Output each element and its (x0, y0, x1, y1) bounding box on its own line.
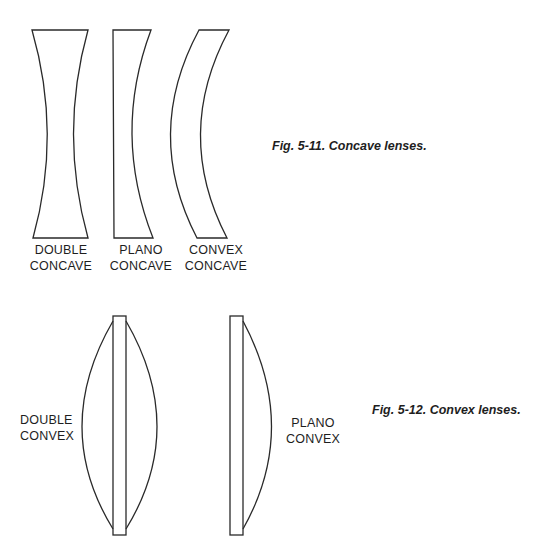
convex-concave-lens (170, 30, 229, 238)
label-plano-convex: PLANO CONVEX (284, 415, 342, 447)
lens-diagrams (0, 0, 540, 556)
label-plano-concave: PLANO CONCAVE (106, 242, 176, 274)
plano-concave-lens (113, 30, 153, 238)
double-concave-lens (32, 30, 88, 238)
label-double-concave: DOUBLE CONCAVE (26, 242, 96, 274)
double-convex-center-plate (113, 316, 126, 535)
double-convex-lens (82, 321, 113, 529)
plano-convex-lens (243, 321, 272, 529)
plano-convex-plate (230, 316, 243, 535)
label-double-convex: DOUBLE CONVEX (20, 412, 78, 444)
label-convex-concave: CONVEX CONCAVE (181, 242, 251, 274)
figure-5-12-caption: Fig. 5-12. Convex lenses. (372, 403, 521, 417)
figure-5-11-caption: Fig. 5-11. Concave lenses. (272, 139, 427, 153)
